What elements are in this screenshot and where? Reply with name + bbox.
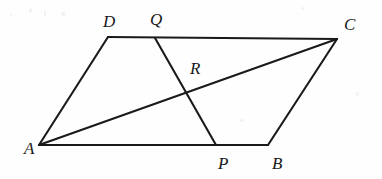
vertex-label-a: A bbox=[24, 140, 34, 157]
vertex-label-p: P bbox=[218, 155, 228, 172]
geometry-figure: D Q C R A P B bbox=[0, 0, 382, 179]
side-cd bbox=[108, 37, 337, 39]
vertex-label-b: B bbox=[272, 155, 282, 172]
vertex-label-r: R bbox=[190, 60, 200, 77]
segment-qp bbox=[155, 38, 216, 145]
vertex-label-c: C bbox=[344, 16, 355, 33]
vertex-label-q: Q bbox=[150, 11, 162, 28]
side-da bbox=[39, 37, 108, 145]
figure-canvas bbox=[0, 0, 382, 179]
side-bc bbox=[268, 39, 337, 145]
diagonal-ac bbox=[39, 39, 337, 145]
vertex-label-d: D bbox=[103, 13, 115, 30]
